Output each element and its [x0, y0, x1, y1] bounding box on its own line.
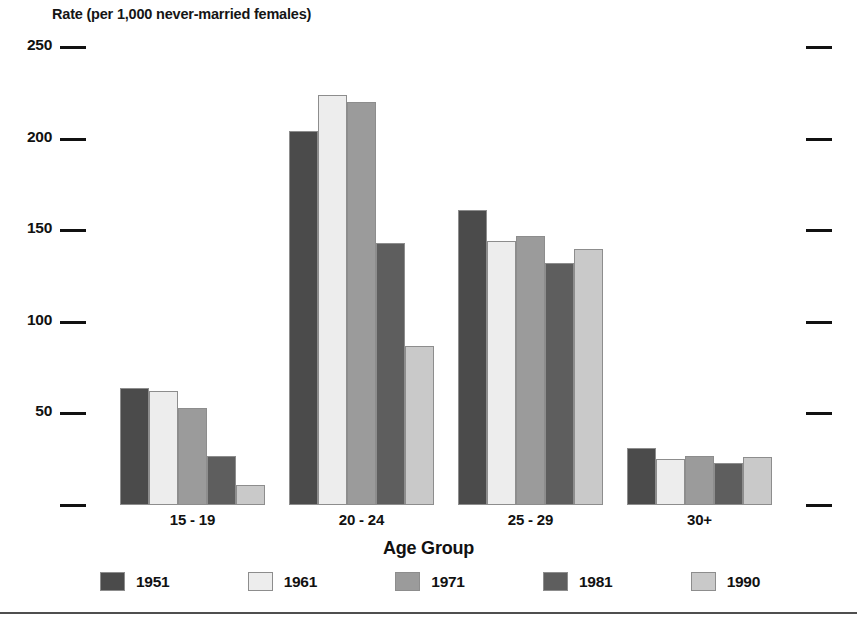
bar-1971-30+	[685, 456, 714, 505]
x-tick-label: 25 - 29	[458, 511, 603, 528]
bar-1951-25-29	[458, 210, 487, 505]
y-tick-mark-right-150	[806, 229, 832, 232]
legend-item-1981[interactable]: 1981	[543, 572, 612, 591]
legend-label: 1971	[431, 573, 464, 591]
legend-swatch-icon	[248, 572, 273, 591]
y-tick-mark-right-50	[806, 412, 832, 415]
y-tick-label-50: 50	[35, 402, 52, 420]
legend-label: 1990	[727, 573, 760, 591]
bar-1971-20-24	[347, 102, 376, 505]
y-tick-mark-left-50	[60, 412, 86, 415]
legend-swatch-icon	[691, 572, 716, 591]
x-tick-label: 20 - 24	[289, 511, 434, 528]
y-tick-mark-left-100	[60, 321, 86, 324]
y-tick-mark-left-200	[60, 138, 86, 141]
bar-1981-30+	[714, 463, 743, 505]
y-tick-mark-left-250	[60, 46, 86, 49]
bottom-divider	[0, 612, 857, 614]
y-tick-label-100: 100	[27, 311, 52, 329]
bar-1990-20-24	[405, 346, 434, 505]
y-tick-mark-right-100	[806, 321, 832, 324]
y-axis-title: Rate (per 1,000 never-married females)	[52, 6, 311, 22]
bar-1961-30+	[656, 459, 685, 505]
bar-1961-20-24	[318, 95, 347, 505]
y-tick-mark-right-200	[806, 138, 832, 141]
x-tick-label: 30+	[627, 511, 772, 528]
bar-1981-20-24	[376, 243, 405, 505]
bar-group	[627, 47, 772, 505]
legend-item-1961[interactable]: 1961	[248, 572, 317, 591]
bar-group	[458, 47, 603, 505]
legend-item-1971[interactable]: 1971	[395, 572, 464, 591]
bar-1981-15-19	[207, 456, 236, 505]
bar-1981-25-29	[545, 263, 574, 505]
legend-label: 1961	[284, 573, 317, 591]
bar-1951-20-24	[289, 131, 318, 505]
bar-1990-30+	[743, 457, 772, 505]
plot-area: 50100150200250	[60, 47, 832, 505]
bars-area	[108, 47, 784, 505]
legend-swatch-icon	[395, 572, 420, 591]
y-tick-mark-left-0	[60, 504, 86, 507]
y-tick-label-250: 250	[27, 36, 52, 54]
legend-label: 1981	[579, 573, 612, 591]
y-tick-mark-left-150	[60, 229, 86, 232]
bar-1971-25-29	[516, 236, 545, 505]
bar-1951-30+	[627, 448, 656, 505]
y-tick-label-200: 200	[27, 128, 52, 146]
bar-1961-25-29	[487, 241, 516, 505]
x-tick-label: 15 - 19	[120, 511, 265, 528]
chart-page: Rate (per 1,000 never-married females) 5…	[0, 0, 857, 627]
bar-1951-15-19	[120, 388, 149, 505]
legend-label: 1951	[136, 573, 169, 591]
bar-1990-25-29	[574, 249, 603, 505]
legend-swatch-icon	[100, 572, 125, 591]
y-tick-label-150: 150	[27, 219, 52, 237]
legend-item-1951[interactable]: 1951	[100, 572, 169, 591]
y-tick-mark-right-0	[806, 504, 832, 507]
y-tick-mark-right-250	[806, 46, 832, 49]
legend: 19511961197119811990	[100, 572, 760, 591]
legend-swatch-icon	[543, 572, 568, 591]
bar-group	[289, 47, 434, 505]
x-axis-title: Age Group	[0, 538, 857, 559]
bar-1971-15-19	[178, 408, 207, 505]
bar-group	[120, 47, 265, 505]
legend-item-1990[interactable]: 1990	[691, 572, 760, 591]
bar-1990-15-19	[236, 485, 265, 505]
bar-1961-15-19	[149, 391, 178, 505]
